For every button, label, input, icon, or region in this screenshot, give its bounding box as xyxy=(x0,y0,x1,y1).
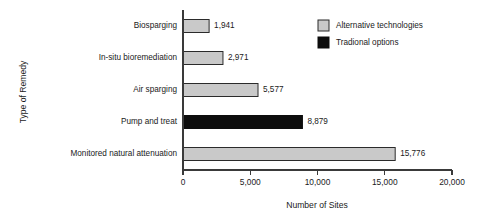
category-label: Monitored natural attenuation xyxy=(70,149,177,158)
bar-value-label: 2,971 xyxy=(228,53,249,62)
category-label: Pump and treat xyxy=(121,117,178,126)
x-axis-tick-labels-group: 05,00010,00015,00020,000 xyxy=(181,177,465,187)
x-axis-tick-label: 15,000 xyxy=(372,177,398,187)
chart-canvas: BiospargingIn-situ bioremediationAir spa… xyxy=(0,0,477,217)
x-axis-ticks-group xyxy=(183,170,452,175)
bar xyxy=(183,116,302,129)
bar-value-label: 15,776 xyxy=(400,149,425,158)
x-axis-title: Number of Sites xyxy=(286,200,348,210)
bar-value-label: 1,941 xyxy=(214,21,235,30)
x-axis-tick-label: 20,000 xyxy=(439,177,465,187)
x-axis-tick-label: 5,000 xyxy=(240,177,261,187)
bar-value-label: 5,577 xyxy=(263,85,284,94)
category-label: Air sparging xyxy=(133,85,177,94)
y-axis-title: Type of Remedy xyxy=(18,60,28,123)
x-axis-tick-label: 10,000 xyxy=(305,177,331,187)
category-label: Biosparging xyxy=(134,21,178,30)
legend-label: Alternative technologies xyxy=(336,21,423,30)
category-labels-group: BiospargingIn-situ bioremediationAir spa… xyxy=(70,21,177,158)
legend-swatch xyxy=(318,20,329,31)
legend-swatch xyxy=(318,37,329,48)
category-label: In-situ bioremediation xyxy=(99,53,178,62)
bar xyxy=(183,20,209,33)
legend-label: Tradional options xyxy=(336,38,399,47)
bar xyxy=(183,148,395,161)
bar-value-label: 8,879 xyxy=(307,117,328,126)
bar xyxy=(183,84,258,97)
bar-chart: BiospargingIn-situ bioremediationAir spa… xyxy=(0,0,477,217)
chart-legend: Alternative technologiesTradional option… xyxy=(318,20,423,48)
x-axis-tick-label: 0 xyxy=(181,177,186,187)
bar xyxy=(183,52,223,65)
